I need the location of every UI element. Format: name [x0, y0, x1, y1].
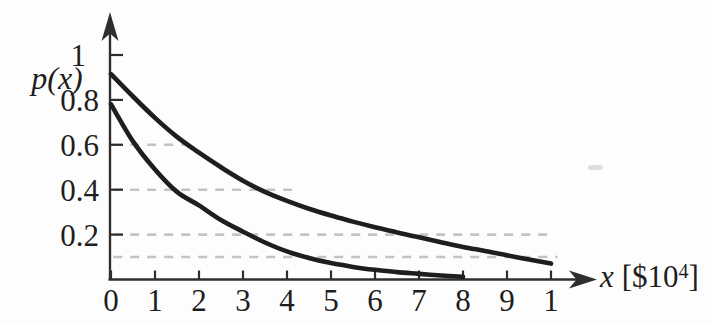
x-tick-label: 4	[279, 283, 295, 318]
x-tick-label: 7	[411, 283, 427, 318]
y-tick-label: 0.4	[60, 173, 99, 208]
x-tick-label: 1	[147, 283, 163, 318]
x-tick-label: 8	[455, 283, 471, 318]
x-tick-label: 9	[499, 283, 515, 318]
x-axis-unit-exponent: 4	[679, 260, 689, 282]
x-tick-label: 5	[323, 283, 339, 318]
x-tick-label: 2	[191, 283, 207, 318]
y-axis-title: p(x)	[30, 62, 84, 94]
x-tick-label: 0	[103, 283, 119, 318]
scan-artifact	[588, 164, 603, 170]
x-axis-title: x[$104]	[600, 261, 699, 292]
x-axis-variable: x	[600, 259, 614, 294]
probability-decay-figure: 10.80.60.40.201234567891 p(x) x[$104]	[0, 0, 712, 325]
x-tick-label: 3	[235, 283, 251, 318]
upper-curve	[111, 74, 551, 264]
x-tick-label: 6	[367, 283, 383, 318]
x-axis-unit-open: [$10	[622, 259, 679, 294]
x-axis-unit-close: ]	[689, 259, 699, 294]
y-tick-label: 0.6	[60, 128, 99, 163]
x-tick-label: 1	[543, 283, 559, 318]
y-tick-label: 0.2	[60, 218, 99, 253]
